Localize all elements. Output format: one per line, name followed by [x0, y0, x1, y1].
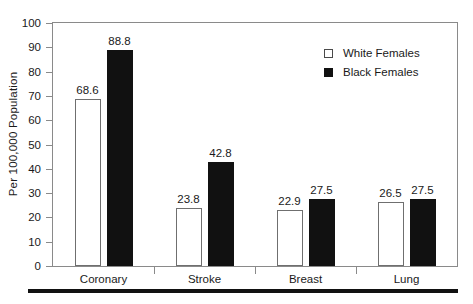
legend-item: Black Females [324, 64, 454, 80]
filled-square-swatch [324, 68, 333, 77]
y-axis-title: Per 100,000 Population [4, 0, 22, 268]
x-axis-group-separator [356, 267, 357, 274]
bar-value-label: 88.8 [108, 34, 130, 48]
y-axis-tick-label: 60 [28, 112, 41, 128]
y-axis-tick-label: 20 [28, 209, 41, 225]
legend-item: White Females [324, 45, 454, 61]
x-axis-category-label: Breast [255, 271, 356, 287]
bar-coronary-black-females: 88.8 [107, 50, 133, 266]
x-axis-group-separator [154, 267, 155, 274]
bar-chart-figure: Per 100,000 Population 10090807060504030… [0, 0, 473, 304]
x-axis-category-label: Lung [356, 271, 457, 287]
bar-value-label: 68.6 [76, 83, 98, 97]
bar-lung-black-females: 27.5 [410, 199, 436, 266]
chart-legend: White FemalesBlack Females [324, 45, 454, 83]
y-axis-tick-label: 40 [28, 161, 41, 177]
y-axis-tick-label: 100 [22, 15, 41, 31]
y-axis-tick-label: 10 [28, 234, 41, 250]
bar-stroke-black-females: 42.8 [208, 162, 234, 266]
legend-item-label: White Females [343, 45, 420, 61]
y-axis-tick-label: 80 [28, 64, 41, 80]
open-square-swatch [324, 49, 333, 58]
bar-value-label: 23.8 [177, 192, 199, 206]
y-axis-tick-label: 70 [28, 88, 41, 104]
bar-lung-white-females: 26.5 [378, 202, 404, 266]
bar-breast-white-females: 22.9 [277, 210, 303, 266]
y-axis-tick-label: 90 [28, 39, 41, 55]
x-axis-group-separator [255, 267, 256, 274]
y-axis-tick-label: 50 [28, 137, 41, 153]
bar-breast-black-females: 27.5 [309, 199, 335, 266]
legend-item-label: Black Females [343, 64, 418, 80]
bar-value-label: 27.5 [411, 183, 433, 197]
x-axis-category-label: Coronary [53, 271, 154, 287]
y-axis-tick-label: 0 [35, 258, 41, 274]
bar-value-label: 42.8 [209, 146, 231, 160]
bar-value-label: 27.5 [310, 183, 332, 197]
bar-stroke-white-females: 23.8 [176, 208, 202, 266]
bar-value-label: 22.9 [278, 194, 300, 208]
bar-value-label: 26.5 [379, 186, 401, 200]
bar-coronary-white-females: 68.6 [75, 99, 101, 266]
bottom-rule [28, 289, 458, 293]
y-axis-tick-label: 30 [28, 185, 41, 201]
x-axis-category-label: Stroke [154, 271, 255, 287]
